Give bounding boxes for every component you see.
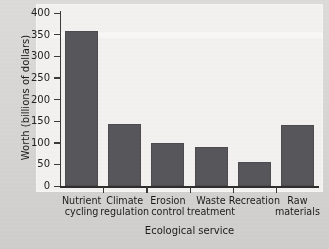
y-tick-mark	[54, 142, 60, 143]
x-tick-mark	[103, 187, 104, 193]
y-tick-mark	[54, 34, 60, 35]
y-axis-line	[60, 11, 61, 188]
bar	[281, 125, 314, 186]
y-axis-title: Worth (billions of dollars)	[20, 3, 31, 193]
y-tick-mark	[54, 99, 60, 100]
x-tick-mark	[233, 187, 234, 193]
bar-chart-figure: 050100150200250300350400 Nutrient cyclin…	[0, 0, 329, 249]
bar	[151, 143, 184, 186]
x-tick-mark	[276, 187, 277, 193]
y-tick-mark	[54, 164, 60, 165]
y-tick-mark	[54, 121, 60, 122]
y-tick-mark	[54, 186, 60, 187]
bar	[65, 31, 98, 186]
bar	[238, 162, 271, 186]
bar	[195, 147, 228, 186]
x-category-label: Raw materials	[272, 195, 323, 218]
x-tick-mark	[146, 187, 147, 193]
bar	[108, 124, 141, 186]
y-tick-mark	[54, 77, 60, 78]
y-tick-mark	[54, 13, 60, 14]
y-tick-mark	[54, 56, 60, 57]
x-tick-mark	[190, 187, 191, 193]
x-axis-title: Ecological service	[60, 225, 319, 236]
